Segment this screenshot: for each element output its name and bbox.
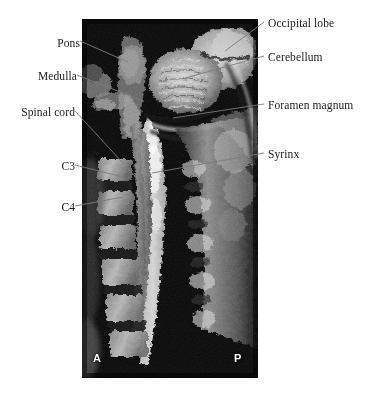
annotation-label-c3: C3 — [0, 161, 75, 173]
orientation-marker-posterior: P — [234, 353, 241, 364]
annotation-label-spinal-cord: Spinal cord — [0, 107, 75, 119]
annotation-label-syrinx: Syrinx — [268, 149, 299, 161]
annotation-label-pons: Pons — [0, 38, 80, 50]
orientation-marker-anterior: A — [93, 353, 101, 364]
mri-figure: A P Pons Medulla Spinal cord C3 C4 Occip… — [0, 0, 368, 393]
annotation-label-medulla: Medulla — [0, 71, 77, 83]
annotation-label-occipital-lobe: Occipital lobe — [268, 18, 334, 30]
annotation-label-cerebellum: Cerebellum — [268, 52, 323, 64]
mri-scan-image — [82, 19, 258, 378]
annotation-label-c4: C4 — [0, 202, 75, 214]
mri-image-panel: A P — [82, 19, 258, 378]
annotation-label-foramen-magnum: Foramen magnum — [268, 100, 353, 112]
